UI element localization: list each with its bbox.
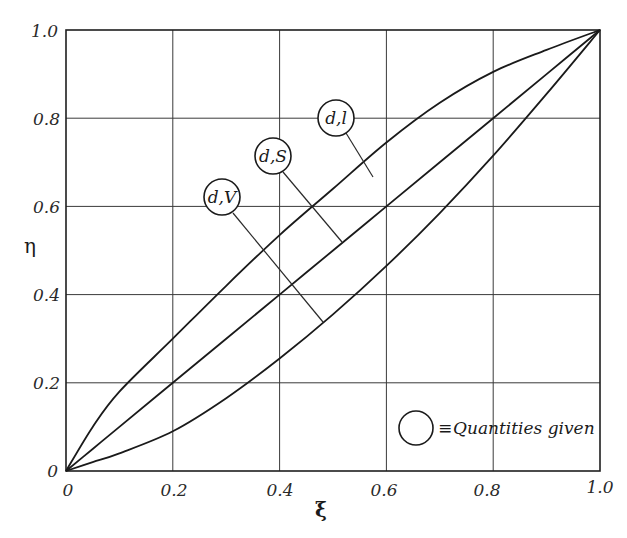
x-tick: 1.0 <box>586 477 613 497</box>
x-ticks: 0 0.2 0.4 0.6 0.8 1.0 <box>63 477 614 500</box>
legend-circle-icon <box>399 411 433 445</box>
y-tick: 0 <box>47 461 58 481</box>
x-tick: 0 <box>63 480 74 500</box>
callout-dl: d,l <box>318 100 354 136</box>
x-axis-label: ξ <box>315 498 327 522</box>
y-axis-label: η <box>24 234 36 258</box>
chart-canvas: d,l d,S d,V ≡ Quantities given 0 0.2 0.4… <box>0 0 627 538</box>
y-tick: 0.4 <box>33 285 60 305</box>
curves <box>66 30 600 471</box>
callout-dV-label: d,V <box>208 187 238 207</box>
leader-dV <box>233 213 323 322</box>
x-tick: 0.4 <box>266 480 293 500</box>
curve-dS <box>66 30 600 471</box>
leader-dl <box>346 133 373 177</box>
legend-text: Quantities given <box>453 418 595 438</box>
callout-dV: d,V <box>204 179 240 215</box>
callout-dS-label: d,S <box>259 146 287 166</box>
legend: ≡ Quantities given <box>399 411 595 445</box>
leader-dS <box>283 172 342 242</box>
x-tick: 0.8 <box>473 480 500 500</box>
y-tick: 1.0 <box>31 21 58 41</box>
x-tick: 0.2 <box>160 480 187 500</box>
y-tick: 0.2 <box>33 373 60 393</box>
y-tick: 0.8 <box>33 109 60 129</box>
legend-equiv: ≡ <box>438 418 452 438</box>
callout-dl-label: d,l <box>325 108 347 128</box>
x-tick: 0.6 <box>370 480 397 500</box>
callout-dS: d,S <box>255 138 291 174</box>
y-tick: 0.6 <box>33 197 60 217</box>
